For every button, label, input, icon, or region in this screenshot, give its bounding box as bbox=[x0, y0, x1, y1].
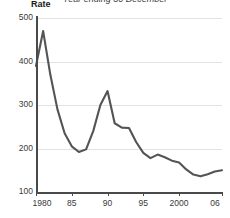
x-axis-line bbox=[36, 192, 223, 194]
x-tick-mark-06 bbox=[222, 192, 223, 196]
x-tick-mark-1980 bbox=[36, 192, 37, 196]
y-axis-line bbox=[36, 16, 38, 193]
x-tick-label-2000: 2000 bbox=[170, 198, 189, 208]
x-tick-mark-90 bbox=[108, 192, 109, 196]
x-tick-label-95: 95 bbox=[139, 198, 148, 208]
x-tick-mark-95 bbox=[143, 192, 144, 196]
y-axis-tick-labels: 100200300400500 bbox=[0, 0, 33, 218]
x-tick-label-06: 06 bbox=[210, 198, 219, 208]
x-tick-label-90: 90 bbox=[103, 198, 112, 208]
x-tick-label-85: 85 bbox=[67, 198, 76, 208]
data-series-line bbox=[36, 18, 222, 192]
y-tick-label-300: 300 bbox=[3, 100, 33, 109]
plot-area bbox=[36, 18, 222, 192]
y-tick-label-400: 400 bbox=[3, 57, 33, 66]
y-tick-label-500: 500 bbox=[3, 13, 33, 22]
x-tick-mark-85 bbox=[72, 192, 73, 196]
y-tick-label-200: 200 bbox=[3, 144, 33, 153]
y-axis-title: Rate bbox=[31, 0, 51, 9]
x-tick-label-1980: 1980 bbox=[33, 198, 52, 208]
line-chart: Year ending 30 December Rate 10020030040… bbox=[0, 0, 230, 218]
x-tick-mark-2000 bbox=[179, 192, 180, 196]
y-tick-label-100: 100 bbox=[3, 187, 33, 196]
